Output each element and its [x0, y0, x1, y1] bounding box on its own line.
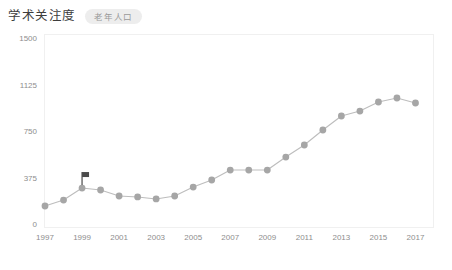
data-point[interactable] — [227, 167, 234, 174]
series-points — [42, 95, 419, 210]
data-point[interactable] — [357, 108, 364, 115]
x-axis-tick-label: 2015 — [370, 233, 388, 242]
data-point[interactable] — [116, 193, 123, 200]
data-point[interactable] — [190, 184, 197, 191]
x-axis-tick-label: 2013 — [332, 233, 350, 242]
y-axis-tick-label: 750 — [24, 127, 38, 136]
series-chip-elderly-population[interactable]: 老年人口 — [85, 9, 142, 24]
y-axis-tick-label: 0 — [33, 220, 38, 229]
data-point[interactable] — [42, 203, 49, 210]
data-point[interactable] — [338, 113, 345, 120]
x-axis-tick-label: 2017 — [407, 233, 425, 242]
x-axis-tick-label: 1997 — [36, 233, 54, 242]
flag-marker-icon — [81, 172, 89, 185]
y-axis-tick-label: 375 — [24, 174, 38, 183]
page-title: 学术关注度 — [8, 8, 76, 24]
data-point[interactable] — [134, 194, 141, 201]
annotations — [81, 172, 89, 185]
x-axis: 1997199920012003200520072009201120132015… — [36, 233, 425, 242]
data-point[interactable] — [301, 142, 308, 149]
data-point[interactable] — [245, 167, 252, 174]
y-axis-tick-label: 1125 — [20, 81, 38, 90]
x-axis-tick-label: 1999 — [73, 233, 91, 242]
data-point[interactable] — [319, 127, 326, 134]
academic-attention-chart-panel: 学术关注度 老年人口 037575011251500 1997199920012… — [0, 0, 452, 270]
panel-header: 学术关注度 老年人口 — [8, 6, 142, 26]
data-point[interactable] — [171, 193, 178, 200]
data-point[interactable] — [394, 95, 401, 102]
x-axis-tick-label: 2007 — [221, 233, 239, 242]
y-axis: 037575011251500 — [19, 34, 37, 229]
data-point[interactable] — [208, 177, 215, 184]
x-axis-tick-label: 2001 — [110, 233, 128, 242]
data-point[interactable] — [97, 187, 104, 194]
data-point[interactable] — [412, 100, 419, 107]
y-axis-tick-label: 1500 — [19, 34, 37, 43]
data-point[interactable] — [375, 99, 382, 106]
data-point[interactable] — [264, 167, 271, 174]
plot-frame — [45, 35, 434, 228]
x-axis-tick-label: 2003 — [147, 233, 165, 242]
line-chart-svg: 037575011251500 199719992001200320052007… — [0, 26, 452, 270]
x-axis-tick-label: 2009 — [258, 233, 276, 242]
data-point[interactable] — [153, 196, 160, 203]
chart-area: 037575011251500 199719992001200320052007… — [0, 26, 452, 270]
data-point[interactable] — [79, 185, 86, 192]
x-axis-tick-label: 2005 — [184, 233, 202, 242]
data-point[interactable] — [60, 197, 67, 204]
x-axis-tick-label: 2011 — [296, 233, 314, 242]
data-point[interactable] — [282, 154, 289, 161]
